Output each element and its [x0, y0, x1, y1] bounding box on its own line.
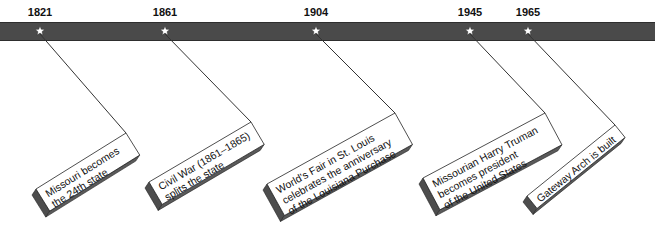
leader-line	[470, 34, 545, 113]
star-icon	[523, 26, 533, 35]
star-icon	[311, 26, 321, 35]
leader-line	[40, 34, 126, 133]
star-icon	[35, 26, 45, 35]
timeline-diagram: 1821 1861 1904 1945 1965 Missouri become…	[0, 0, 655, 227]
star-icon	[465, 26, 475, 35]
leader-line	[165, 34, 251, 122]
star-icon	[160, 26, 170, 35]
leader-line	[316, 34, 395, 113]
leader-line	[528, 34, 615, 125]
